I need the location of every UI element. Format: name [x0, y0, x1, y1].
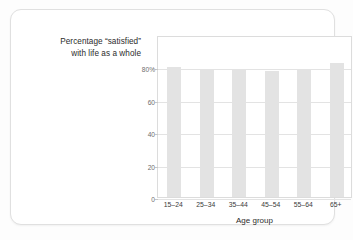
page-background: Percentage “satisfied” with life as a wh…: [0, 0, 353, 240]
gridline: [158, 199, 351, 200]
x-axis-tick-label: 25–34: [196, 201, 215, 208]
bar: [167, 67, 181, 197]
x-axis-tick-label: 45–54: [261, 201, 280, 208]
y-axis-tick-label: 80%: [142, 66, 155, 73]
bar: [200, 70, 214, 197]
bar: [330, 63, 344, 197]
plot-area: 020406080%: [157, 36, 352, 198]
figure-title-line-2: with life as a whole: [23, 48, 141, 60]
x-axis-tick-label: 55–64: [294, 201, 313, 208]
y-axis-tick-label: 40: [148, 131, 155, 138]
x-axis-tick-labels: 15–2425–3435–4445–5455–6465+: [157, 201, 352, 213]
figure-title-line-1: Percentage “satisfied”: [23, 36, 141, 48]
x-axis-title: Age group: [157, 216, 352, 225]
y-axis-tick-label: 20: [148, 163, 155, 170]
x-axis-tick-label: 65+: [330, 201, 342, 208]
bar: [297, 70, 311, 197]
y-axis-tick-label: 0: [151, 196, 155, 203]
y-axis-tick-label: 60: [148, 98, 155, 105]
figure-card: Percentage “satisfied” with life as a wh…: [10, 9, 335, 225]
figure-title: Percentage “satisfied” with life as a wh…: [23, 36, 141, 59]
y-axis-tick-mark: [155, 199, 158, 200]
x-axis-tick-label: 15–24: [164, 201, 183, 208]
bar-chart: 020406080% 15–2425–3435–4445–5455–6465+ …: [147, 26, 353, 232]
bar: [232, 70, 246, 197]
bar-series: [158, 37, 351, 197]
x-axis-tick-label: 35–44: [229, 201, 248, 208]
bar: [265, 71, 279, 197]
